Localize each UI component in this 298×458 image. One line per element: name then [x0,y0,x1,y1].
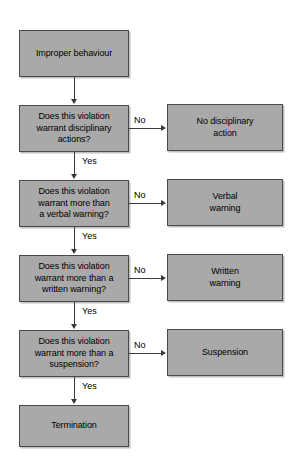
connector-decision4-to-end [74,377,75,400]
connector-decision1-to-decision2 [74,152,75,175]
edge-label-no-1: No [134,115,146,125]
edge-label-no-4: No [134,340,146,350]
arrowhead-decision4-to-end [71,399,77,404]
arrowhead-decision4-to-outcome4 [161,350,166,356]
node-outcome2-label: Verbal warning [210,191,241,214]
node-outcome4-label: Suspension [202,347,248,359]
node-end-label: Termination [51,420,96,432]
arrowhead-decision1-to-outcome1 [161,125,166,131]
node-outcome2: Verbal warning [167,179,283,226]
node-outcome1-label: No disciplinary action [196,116,253,139]
node-decision3-label: Does this violation warrant more than a … [35,261,114,296]
node-start-label: Improper behaviour [36,48,112,60]
arrowhead-decision2-to-outcome2 [161,200,166,206]
connector-decision4-to-outcome4 [129,353,161,354]
node-decision4-label: Does this violation warrant more than a … [35,336,114,371]
arrowhead-decision3-to-outcome3 [161,275,166,281]
connector-decision2-to-decision3 [74,227,75,250]
flowchart-canvas: Improper behaviour Does this violation w… [0,0,298,458]
node-decision1: Does this violation warrant disciplinary… [19,105,129,152]
connector-decision2-to-outcome2 [129,203,161,204]
edge-label-no-2: No [134,190,146,200]
edge-label-no-3: No [134,265,146,275]
connector-decision1-to-outcome1 [129,128,161,129]
connector-start-to-decision1 [74,77,75,100]
node-decision2: Does this violation warrant more than a … [19,180,129,227]
node-outcome3: Written warning [167,254,283,301]
arrowhead-decision3-to-decision4 [71,324,77,329]
connector-decision3-to-decision4 [74,302,75,325]
edge-label-yes-4: Yes [82,381,97,391]
edge-label-yes-1: Yes [82,156,97,166]
arrowhead-start-to-decision1 [71,99,77,104]
node-start: Improper behaviour [19,30,129,77]
node-outcome3-label: Written warning [210,266,241,289]
arrowhead-decision2-to-decision3 [71,249,77,254]
node-outcome1: No disciplinary action [167,104,283,151]
node-outcome4: Suspension [167,329,283,376]
edge-label-yes-3: Yes [82,306,97,316]
node-end: Termination [19,405,129,447]
node-decision3: Does this violation warrant more than a … [19,255,129,302]
node-decision2-label: Does this violation warrant more than a … [38,186,109,221]
edge-label-yes-2: Yes [82,231,97,241]
node-decision1-label: Does this violation warrant disciplinary… [36,111,111,146]
connector-decision3-to-outcome3 [129,278,161,279]
node-decision4: Does this violation warrant more than a … [19,330,129,377]
arrowhead-decision1-to-decision2 [71,174,77,179]
